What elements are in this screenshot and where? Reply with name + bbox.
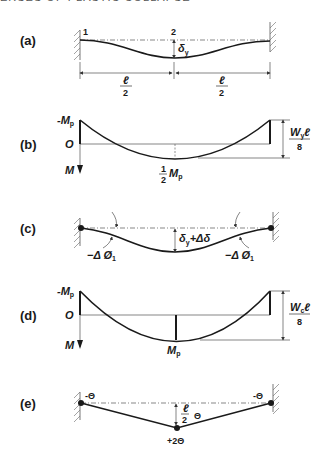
rotation-right-label: -Θ bbox=[253, 391, 263, 401]
span-left-numerator: ℓ bbox=[123, 74, 129, 86]
half-frac-num: 1 bbox=[161, 164, 166, 174]
hinge-rotation-label: +2Θ bbox=[167, 436, 184, 446]
deflection-label: δy bbox=[178, 42, 189, 57]
panel-b-label: (b) bbox=[20, 137, 37, 152]
rotation-right-label: −Δ Ø1 bbox=[225, 249, 254, 262]
fixed-support-left-icon bbox=[74, 30, 80, 60]
span-right-denominator: 2 bbox=[219, 88, 224, 98]
plastic-hinge-mid-icon bbox=[174, 425, 180, 431]
plastic-hinge-right-icon bbox=[268, 400, 274, 406]
panel-a: (a) 1 2 δy ℓ 2 ℓ 2 bbox=[20, 22, 276, 98]
rotation-left-label: −Δ Ø1 bbox=[87, 249, 116, 262]
mid-theta-label: Θ bbox=[194, 411, 201, 421]
panel-d: (d) -Mp O M Mp Wcℓ 8 bbox=[20, 285, 310, 358]
neg-moment-label: -Mp bbox=[57, 285, 74, 299]
moment-axis-label: M bbox=[65, 164, 75, 176]
dim-denominator: 8 bbox=[297, 142, 302, 152]
panel-b: (b) -Mp O M 1 2 Mp Wyℓ 8 bbox=[20, 114, 310, 185]
plastic-collapse-diagram: (a) 1 2 δy ℓ 2 ℓ 2 (b) bbox=[0, 0, 324, 467]
panel-c-label: (c) bbox=[20, 221, 36, 236]
span-left-denominator: 2 bbox=[123, 88, 128, 98]
dim-denominator: 8 bbox=[297, 317, 302, 327]
plastic-moment-label: Mp bbox=[167, 344, 180, 358]
rotation-arrow-right-icon bbox=[236, 212, 241, 227]
mid-frac-den: 2 bbox=[182, 415, 187, 425]
plastic-hinge-right-icon bbox=[268, 225, 274, 231]
panel-e-label: (e) bbox=[20, 396, 36, 411]
dim-numerator: Wcℓ bbox=[290, 301, 310, 314]
half-moment-label: Mp bbox=[169, 167, 182, 181]
mid-frac-num: ℓ bbox=[183, 402, 189, 414]
origin-label: O bbox=[65, 138, 74, 150]
moment-axis-arrow-icon bbox=[77, 340, 83, 349]
half-frac-den: 2 bbox=[161, 175, 166, 185]
fixed-support-right-icon bbox=[270, 22, 276, 52]
moment-axis-arrow-icon bbox=[77, 165, 83, 174]
fixed-support-left-icon bbox=[74, 392, 80, 422]
fixed-support-left-icon bbox=[74, 218, 80, 248]
deflection-label: δy+Δδ bbox=[179, 232, 210, 247]
deflected-beam bbox=[80, 40, 270, 58]
plastic-hinge-left-icon bbox=[78, 225, 84, 231]
fixed-support-right-icon bbox=[273, 212, 279, 242]
node-2-label: 2 bbox=[171, 27, 176, 37]
moment-curve bbox=[80, 120, 270, 159]
dim-numerator: Wyℓ bbox=[290, 126, 310, 140]
panel-a-label: (a) bbox=[20, 33, 36, 48]
moment-axis-label: M bbox=[65, 339, 75, 351]
panel-e: (e) -Θ -Θ ℓ 2 Θ +2Θ bbox=[20, 384, 279, 446]
panel-c: (c) δy+Δδ −Δ Ø1 −Δ Ø1 bbox=[20, 212, 279, 262]
panel-d-label: (d) bbox=[20, 308, 37, 323]
span-right-numerator: ℓ bbox=[219, 74, 225, 86]
plastic-hinge-left-icon bbox=[78, 400, 84, 406]
rotation-left-label: -Θ bbox=[85, 391, 95, 401]
rotation-arrow-left-icon bbox=[112, 212, 117, 227]
origin-label: O bbox=[65, 309, 74, 321]
node-1-label: 1 bbox=[83, 27, 88, 37]
fixed-support-right-icon bbox=[273, 384, 279, 414]
neg-moment-label: -Mp bbox=[57, 114, 74, 128]
